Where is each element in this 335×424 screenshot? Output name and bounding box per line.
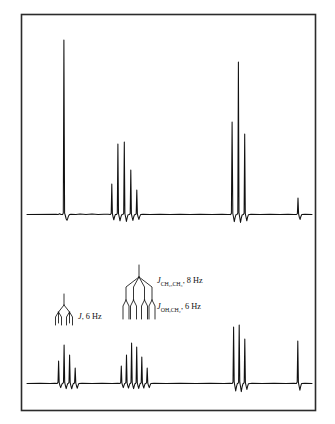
- annotation-j-ch2-ch3: JCH₂,CH₃, 8 Hz: [157, 277, 203, 285]
- upper-spectrum-group: [27, 40, 312, 222]
- tree-small-leaf-3: [67, 312, 70, 325]
- tree-large-leaf-3: [131, 300, 134, 319]
- tree-large-leaf-2: [126, 300, 129, 319]
- tree-large-leaf-8: [152, 300, 155, 319]
- splitting-tree-large: [123, 265, 155, 319]
- nmr-figure-canvas: [0, 0, 335, 424]
- coupling-subscript-ch2-ch3: CH₂,CH₃: [161, 281, 183, 287]
- tree-small-leaf-4: [70, 312, 73, 325]
- tree-small-leaf-2: [59, 312, 62, 325]
- figure-border: [22, 15, 316, 411]
- splitting-tree-small: [56, 294, 73, 325]
- lower-spectrum-trace: [27, 325, 312, 392]
- lower-spectrum-group: [27, 325, 312, 392]
- nmr-figure-root: JCH₂,CH₃, 8 Hz JOH,CH₂, 6 Hz J, 6 Hz: [0, 0, 335, 424]
- coupling-value-6hz-b: , 6 Hz: [82, 312, 102, 321]
- tree-large-leaf-4: [134, 300, 137, 319]
- tree-large-leaf-5: [142, 300, 145, 319]
- coupling-subscript-oh-ch2: OH,CH₂: [161, 307, 181, 313]
- annotation-j-oh-ch2: JOH,CH₂, 6 Hz: [157, 303, 201, 311]
- coupling-value-6hz-a: , 6 Hz: [181, 302, 201, 311]
- coupling-value-8hz: , 8 Hz: [183, 276, 203, 285]
- tree-small-leaf-1: [56, 312, 59, 325]
- annotation-j-simple: J, 6 Hz: [78, 313, 102, 321]
- tree-large-leaf-1: [123, 300, 126, 319]
- tree-large-leaf-6: [145, 300, 148, 319]
- upper-spectrum-trace: [27, 40, 312, 222]
- tree-large-leaf-7: [149, 300, 152, 319]
